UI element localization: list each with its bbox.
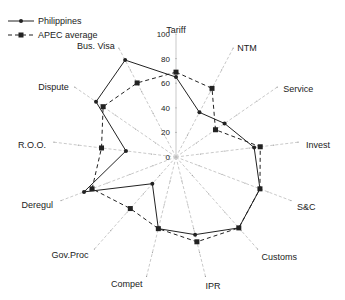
axis-tick xyxy=(244,183,245,184)
data-point-square xyxy=(135,80,140,85)
axis-label: Service xyxy=(283,84,313,94)
radial-tick-label: 40 xyxy=(161,104,170,113)
axis-tick xyxy=(53,142,54,143)
radial-tick-label: 0 xyxy=(166,153,171,162)
axis-tick xyxy=(273,145,274,146)
axis-label: R.O.O. xyxy=(18,140,46,150)
data-point-square xyxy=(213,127,218,132)
axis-tick xyxy=(298,142,299,143)
data-point-dot xyxy=(223,121,227,125)
axis-tick xyxy=(129,174,130,175)
radial-tick-label: 80 xyxy=(161,55,170,64)
axis-tick xyxy=(193,228,194,229)
axis-label: NTM xyxy=(237,43,257,53)
axis-tick xyxy=(236,114,237,115)
data-point-dot xyxy=(124,149,128,153)
radial-tick-label: 100 xyxy=(157,30,171,39)
axis-tick xyxy=(135,128,136,129)
axis-tick xyxy=(221,69,222,70)
radar-chart: TariffNTMServiceInvestS&CCustomsIPRCompe… xyxy=(0,0,345,300)
data-point-square xyxy=(101,104,106,109)
axis-tick xyxy=(187,204,188,205)
axis-tick xyxy=(200,153,201,154)
axis-tick xyxy=(146,276,147,277)
data-point-dot xyxy=(82,190,86,194)
axis-tick xyxy=(153,113,154,114)
axis-label: Invest xyxy=(306,140,331,150)
axis-tick xyxy=(257,248,258,249)
data-point-square xyxy=(257,186,262,191)
axis-tick xyxy=(221,174,222,175)
data-point-square xyxy=(210,86,215,91)
axis-tick xyxy=(192,175,193,176)
axis-tick xyxy=(110,230,111,231)
data-point-square xyxy=(90,186,95,191)
axis-tick xyxy=(78,145,79,146)
axis-tick xyxy=(151,153,152,154)
axis-tick xyxy=(277,87,278,88)
axis-label: IPR xyxy=(205,281,221,291)
data-point-square xyxy=(174,70,179,75)
axis-tick xyxy=(224,212,225,213)
axis-tick xyxy=(175,83,176,84)
data-point-dot xyxy=(123,58,127,62)
axis-tick xyxy=(141,91,142,92)
axis-tick xyxy=(159,175,160,176)
radial-tick-label: 60 xyxy=(161,79,170,88)
axis-tick xyxy=(175,58,176,59)
axis-line xyxy=(119,48,176,157)
data-point-square xyxy=(156,226,161,231)
axis-tick xyxy=(181,180,182,181)
data-point-dot xyxy=(94,100,98,104)
axis-tick xyxy=(199,252,200,253)
axis-tick xyxy=(143,193,144,194)
axis-tick xyxy=(205,276,206,277)
radial-tick-label: 20 xyxy=(161,128,170,137)
data-point-dot xyxy=(252,146,256,150)
axis-tick xyxy=(164,204,165,205)
axis-tick xyxy=(187,135,188,136)
axis-label: Gov.Proc xyxy=(52,250,89,260)
axis-tick xyxy=(233,47,234,48)
axis-label: Bus. Visa xyxy=(77,41,115,51)
axis-tick xyxy=(130,69,131,70)
axis-tick xyxy=(290,200,291,201)
axis-tick xyxy=(210,91,211,92)
axis-tick xyxy=(106,183,107,184)
axis-tick xyxy=(196,142,197,143)
axis-tick xyxy=(208,193,209,194)
axis-line xyxy=(147,157,176,276)
axis-tick xyxy=(118,47,119,48)
axis-tick xyxy=(60,200,61,201)
axis-tick xyxy=(224,150,225,151)
axis-tick xyxy=(256,101,257,102)
axis-tick xyxy=(170,180,171,181)
data-point-square xyxy=(194,239,199,244)
axis-tick xyxy=(175,107,176,108)
data-point-dot xyxy=(174,75,178,79)
axis-tick xyxy=(152,165,153,166)
axis-label: Customs xyxy=(262,252,298,262)
axis-line xyxy=(176,157,205,276)
data-point-dot xyxy=(193,233,197,237)
axis-tick xyxy=(155,142,156,143)
axis-label: Compet xyxy=(111,279,143,289)
data-point-square xyxy=(236,225,241,230)
data-point-dot xyxy=(197,110,201,114)
axis-tick xyxy=(152,252,153,253)
axis-tick xyxy=(94,248,95,249)
axis-label: Deregul xyxy=(21,200,53,210)
axis-tick xyxy=(74,87,75,88)
data-point-square xyxy=(128,206,133,211)
axis-label: Dispute xyxy=(38,82,69,92)
axis-tick xyxy=(126,212,127,213)
axis-tick xyxy=(175,132,176,133)
series-line-philippines xyxy=(84,60,260,235)
axis-line xyxy=(61,157,176,201)
axis-tick xyxy=(198,165,199,166)
data-point-square xyxy=(99,145,104,150)
axis-line xyxy=(176,48,233,157)
data-point-dot xyxy=(150,182,154,186)
axis-tick xyxy=(267,191,268,192)
axis-label: S&C xyxy=(297,202,316,212)
